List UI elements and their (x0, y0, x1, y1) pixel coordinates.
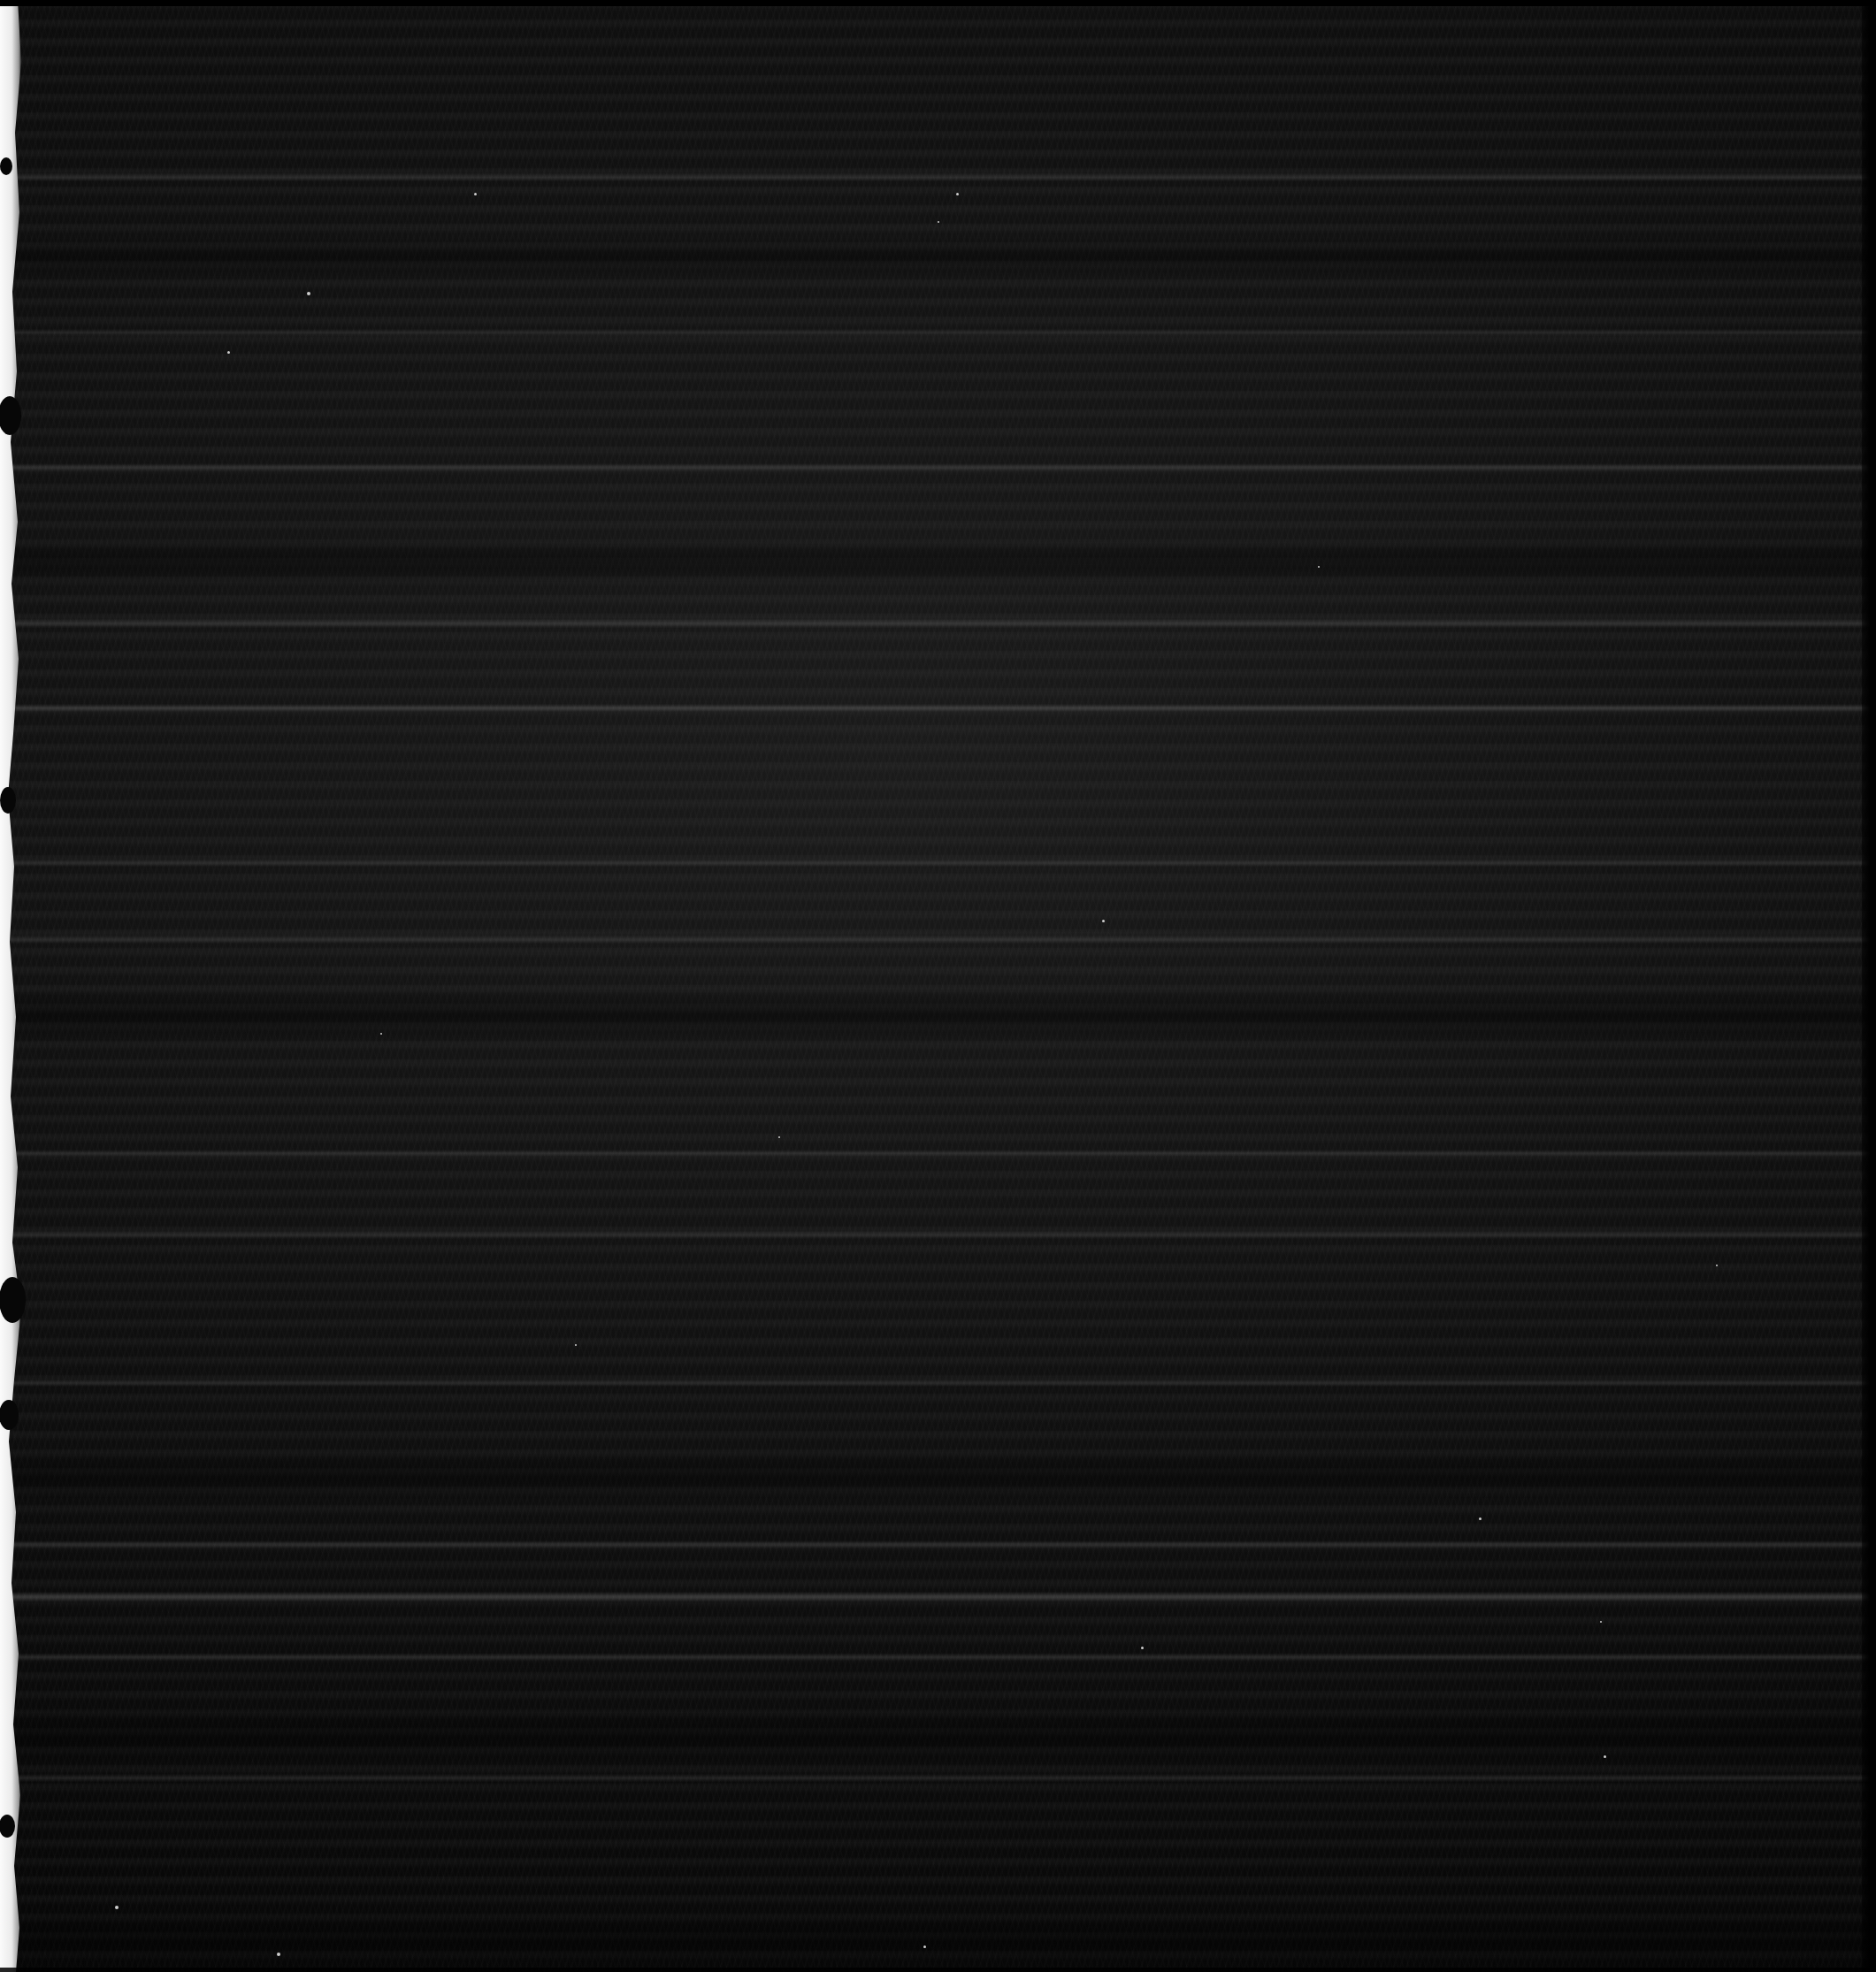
scanned-document-page (0, 0, 1876, 1972)
margin-outline (0, 0, 21, 1972)
margin-blob-0 (0, 396, 21, 435)
margin-strip-shape (0, 0, 30, 1972)
margin-blob-4 (0, 157, 12, 175)
top-edge-sliver (0, 0, 1876, 6)
left-margin-strip (0, 0, 30, 1972)
bottom-edge-sliver (0, 1968, 1876, 1972)
margin-blob-3 (0, 1400, 19, 1430)
right-edge-sliver (1862, 0, 1876, 1972)
margin-blob-2 (0, 1277, 26, 1323)
margin-blob-1 (0, 787, 16, 814)
page-dark-field (0, 0, 1876, 1972)
